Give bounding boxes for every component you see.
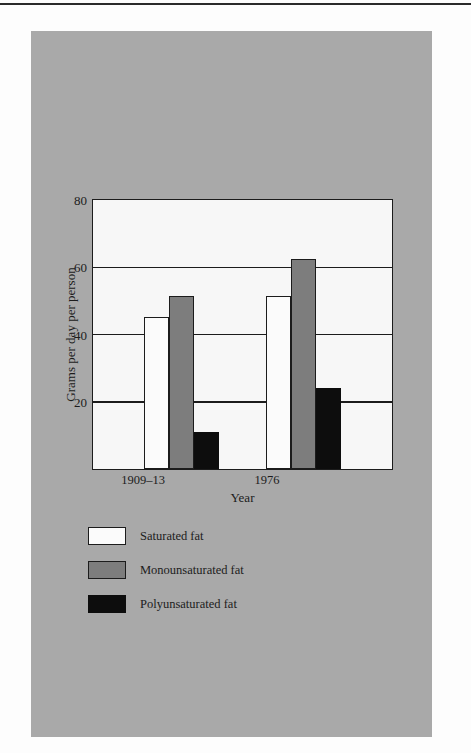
x-tick-label-group-2: 1976 <box>255 474 280 487</box>
x-axis-title: Year <box>231 491 255 504</box>
y-tick-label-80: 80 <box>74 194 87 207</box>
scanned-page: Grams per day per person 80 60 40 20 <box>0 0 471 753</box>
bar-1976-monounsaturated-fat <box>291 259 316 469</box>
legend-label-polyunsaturated-fat: Polyunsaturated fat <box>140 598 237 611</box>
y-tick-label-40: 40 <box>74 328 87 341</box>
gray-swatch-icon <box>88 561 126 579</box>
legend-item-saturated-fat: Saturated fat <box>88 519 388 553</box>
bar-1976-saturated-fat <box>266 296 291 469</box>
bar-1976-polyunsaturated-fat <box>316 388 341 469</box>
x-tick-label-group-1: 1909–13 <box>121 474 165 487</box>
bar-1909-13-polyunsaturated-fat <box>194 432 219 469</box>
plot-area: 80 60 40 20 1909–13 1976 Year <box>92 199 393 470</box>
page-top-rule <box>0 3 471 5</box>
y-tick-label-60: 60 <box>74 261 87 274</box>
legend-label-saturated-fat: Saturated fat <box>140 530 204 543</box>
legend-item-monounsaturated-fat: Monounsaturated fat <box>88 553 388 587</box>
y-tick-label-20: 20 <box>74 395 87 408</box>
black-swatch-icon <box>88 595 126 613</box>
bars-layer <box>93 200 392 469</box>
figure-panel: Grams per day per person 80 60 40 20 <box>31 31 432 737</box>
bar-1909-13-monounsaturated-fat <box>169 296 194 469</box>
white-swatch-icon <box>88 527 126 545</box>
legend-item-polyunsaturated-fat: Polyunsaturated fat <box>88 587 388 621</box>
legend-label-monounsaturated-fat: Monounsaturated fat <box>140 564 244 577</box>
chart-legend: Saturated fat Monounsaturated fat Polyun… <box>88 519 388 621</box>
bar-1909-13-saturated-fat <box>144 317 169 469</box>
